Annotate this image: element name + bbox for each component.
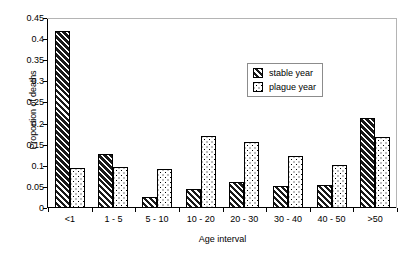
bar-plague-year xyxy=(288,156,303,208)
bar-group xyxy=(179,18,223,208)
y-axis-tick-mark xyxy=(43,102,47,103)
y-axis-tick-label: 0.4 xyxy=(0,34,44,44)
x-axis-tick-label: 10 - 20 xyxy=(179,214,223,224)
legend-label-stable-year: stable year xyxy=(269,68,313,78)
bar-stable-year xyxy=(360,118,375,208)
bar-plague-year xyxy=(113,167,128,208)
x-axis-tick-mark xyxy=(223,208,224,212)
bar-stable-year xyxy=(186,189,201,208)
bar-stable-year xyxy=(317,185,332,208)
legend-swatch-stable-year-icon xyxy=(253,68,263,78)
y-axis-tick-mark xyxy=(43,208,47,209)
y-axis-tick-label: 0.15 xyxy=(0,140,44,150)
x-axis-tick-label: <1 xyxy=(48,214,92,224)
y-axis-tick-label: 0.05 xyxy=(0,182,44,192)
bar-group xyxy=(310,18,354,208)
bar-plague-year xyxy=(375,137,390,208)
legend-item-plague-year: plague year xyxy=(253,82,316,92)
y-axis-tick-mark xyxy=(43,166,47,167)
x-axis-tick-mark xyxy=(397,208,398,212)
y-axis-tick-label: 0.35 xyxy=(0,55,44,65)
x-axis-tick-label: 30 - 40 xyxy=(266,214,310,224)
bar-stable-year xyxy=(55,31,70,208)
legend-item-stable-year: stable year xyxy=(253,68,316,78)
y-axis-tick-label: 0.2 xyxy=(0,119,44,129)
y-axis-tick-label: 0.1 xyxy=(0,161,44,171)
bar-group xyxy=(266,18,310,208)
bar-stable-year xyxy=(273,186,288,208)
y-axis-tick-label: 0.3 xyxy=(0,76,44,86)
x-axis-tick-mark xyxy=(135,208,136,212)
bar-plague-year xyxy=(70,168,85,208)
x-axis-tick-mark xyxy=(48,208,49,212)
y-axis-tick-label: 0.45 xyxy=(0,13,44,23)
bar-plague-year xyxy=(332,165,347,208)
bar-stable-year xyxy=(142,197,157,208)
x-axis-tick-mark xyxy=(353,208,354,212)
bar-plague-year xyxy=(201,136,216,208)
y-axis-tick-mark xyxy=(43,39,47,40)
bar-stable-year xyxy=(229,182,244,208)
bar-groups xyxy=(48,18,397,208)
legend-swatch-plague-year-icon xyxy=(253,82,263,92)
bar-group xyxy=(92,18,136,208)
x-axis-tick-label: 40 - 50 xyxy=(310,214,354,224)
y-axis-tick-mark xyxy=(43,18,47,19)
x-axis-tick-mark xyxy=(310,208,311,212)
x-axis-tick-mark xyxy=(266,208,267,212)
y-axis-tick-mark xyxy=(43,81,47,82)
bar-plague-year xyxy=(157,169,172,208)
bar-group xyxy=(135,18,179,208)
x-axis-tick-label: 20 - 30 xyxy=(223,214,267,224)
chart-legend: stable year plague year xyxy=(247,63,323,97)
bar-chart-figure: Proportion of deaths 00.050.10.150.20.25… xyxy=(0,0,413,272)
x-axis-tick-label: 5 - 10 xyxy=(135,214,179,224)
bar-plague-year xyxy=(244,142,259,208)
y-axis-tick-label: 0.25 xyxy=(0,97,44,107)
x-axis-labels: <11 - 55 - 1010 - 2020 - 3030 - 4040 - 5… xyxy=(48,214,397,224)
y-axis-tick-mark xyxy=(43,187,47,188)
bar-group xyxy=(353,18,397,208)
x-axis-tick-mark xyxy=(92,208,93,212)
x-axis-title: Age interval xyxy=(48,234,397,244)
x-axis-tick-mark xyxy=(179,208,180,212)
bar-group xyxy=(223,18,267,208)
bar-stable-year xyxy=(98,154,113,208)
y-axis-tick-mark xyxy=(43,60,47,61)
y-axis-tick-label: 0 xyxy=(0,203,44,213)
y-axis-tick-mark xyxy=(43,145,47,146)
x-axis-tick-label: 1 - 5 xyxy=(92,214,136,224)
y-axis-tick-mark xyxy=(43,124,47,125)
x-axis-tick-label: >50 xyxy=(353,214,397,224)
legend-label-plague-year: plague year xyxy=(269,82,316,92)
bar-group xyxy=(48,18,92,208)
